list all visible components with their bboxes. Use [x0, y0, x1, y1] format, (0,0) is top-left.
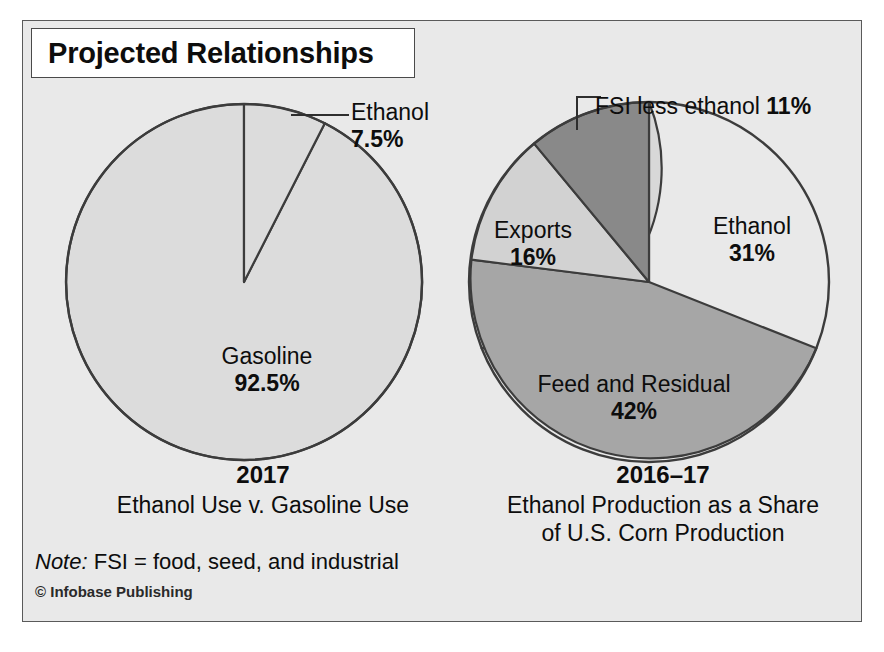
label-gasoline-name: Gasoline: [169, 343, 365, 370]
figure-panel: Projected Relationships Ethanol 7.5% Gas…: [22, 20, 862, 622]
label-feed-residual-name: Feed and Residual: [489, 371, 779, 398]
label-ethanol-left-name: Ethanol: [351, 99, 429, 126]
label-gasoline: Gasoline 92.5%: [169, 343, 365, 396]
label-ethanol-left-value: 7.5%: [351, 126, 429, 153]
copyright-credit: © Infobase Publishing: [35, 583, 193, 600]
label-ethanol-right-value: 31%: [677, 240, 827, 267]
label-fsi-less-ethanol: FSI less ethanol 11%: [595, 93, 811, 120]
label-gasoline-value: 92.5%: [169, 370, 365, 397]
label-exports-name: Exports: [453, 217, 613, 244]
caption-left-subtitle: Ethanol Use v. Gasoline Use: [53, 492, 473, 520]
label-feed-residual: Feed and Residual 42%: [489, 371, 779, 424]
caption-right-subtitle-line1: Ethanol Production as a Share: [463, 492, 863, 520]
caption-left-year: 2017: [53, 461, 473, 489]
slice-feed-residual: [470, 260, 816, 459]
label-fsi-value: 11%: [766, 93, 811, 119]
label-fsi-name: FSI less ethanol: [595, 93, 766, 119]
label-exports: Exports 16%: [453, 217, 613, 270]
footnote-note-lead: Note:: [35, 549, 88, 574]
caption-right-chart: 2016–17 Ethanol Production as a Share of…: [463, 461, 863, 547]
caption-left-chart: 2017 Ethanol Use v. Gasoline Use: [53, 461, 473, 520]
label-ethanol-left: Ethanol 7.5%: [351, 99, 429, 152]
label-ethanol-right-name: Ethanol: [677, 213, 827, 240]
caption-right-subtitle-line2: of U.S. Corn Production: [463, 520, 863, 548]
label-ethanol-right: Ethanol 31%: [677, 213, 827, 266]
caption-right-year: 2016–17: [463, 461, 863, 489]
footnote-note: Note: FSI = food, seed, and industrial: [35, 549, 399, 575]
label-feed-residual-value: 42%: [489, 398, 779, 425]
label-exports-value: 16%: [453, 244, 613, 271]
footnote-note-text: FSI = food, seed, and industrial: [88, 549, 399, 574]
